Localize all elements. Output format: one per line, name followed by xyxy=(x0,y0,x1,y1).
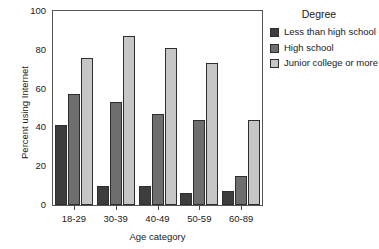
x-tick-mark xyxy=(158,205,159,210)
x-axis-tick-labels: 18-2930-3940-4950-5960-89 xyxy=(52,205,263,249)
bar xyxy=(235,176,247,205)
x-tick-mark xyxy=(199,205,200,210)
bar xyxy=(248,120,260,205)
legend-item-label: Less than high school xyxy=(284,27,378,38)
y-tick-label: 100 xyxy=(20,6,46,16)
legend-swatch-icon xyxy=(270,44,279,53)
y-tick-label: 0 xyxy=(20,200,46,210)
x-tick-mark xyxy=(116,205,117,210)
legend: Degree Less than high schoolHigh schoolJ… xyxy=(270,8,378,74)
bar xyxy=(180,193,192,205)
bar xyxy=(222,191,234,205)
legend-item-label: Junior college or more xyxy=(284,58,378,69)
plot-area xyxy=(52,10,263,206)
legend-item: High school xyxy=(270,43,378,54)
legend-swatch-icon xyxy=(270,59,279,68)
legend-item: Less than high school xyxy=(270,27,378,38)
y-tick-label: 20 xyxy=(20,161,46,171)
bar xyxy=(110,102,122,205)
y-tick-label: 60 xyxy=(20,84,46,94)
x-tick-label: 60-89 xyxy=(211,213,271,224)
bar xyxy=(81,58,93,205)
y-axis-tick-labels: 020406080100 xyxy=(18,0,46,249)
x-tick-mark xyxy=(74,205,75,210)
bars-container xyxy=(53,11,262,205)
legend-swatch-icon xyxy=(270,28,279,37)
bar xyxy=(206,63,218,205)
bar xyxy=(152,114,164,205)
x-axis-title: Age category xyxy=(52,231,263,242)
bar xyxy=(193,120,205,205)
y-tick-label: 80 xyxy=(20,45,46,55)
x-tick-mark xyxy=(241,205,242,210)
bar-chart-figure: Percent using Internet 020406080100 18-2… xyxy=(0,0,379,249)
bar xyxy=(123,36,135,205)
y-tick-label: 40 xyxy=(20,122,46,132)
bar xyxy=(97,186,109,205)
legend-title: Degree xyxy=(270,8,368,20)
bar xyxy=(68,94,80,205)
legend-item: Junior college or more xyxy=(270,58,378,69)
legend-item-label: High school xyxy=(284,43,378,54)
legend-entries: Less than high schoolHigh schoolJunior c… xyxy=(270,27,378,69)
bar xyxy=(165,48,177,205)
bar xyxy=(55,125,67,205)
bar xyxy=(139,186,151,205)
